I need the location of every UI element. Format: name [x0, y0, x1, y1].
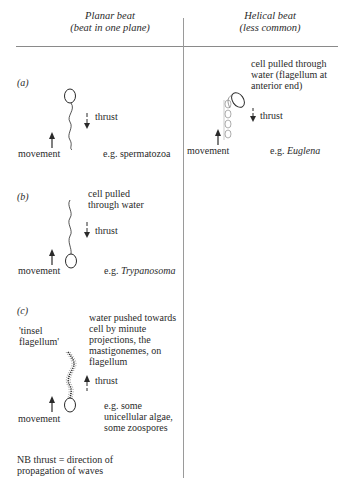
panel-c-example: e.g. some unicellular algae, some zoospo…	[104, 400, 173, 433]
panel-c-movement-label: movement	[18, 413, 60, 424]
panel-c-thrust-label: thrust	[95, 375, 118, 386]
nb-note: NB thrust = direction of propagation of …	[17, 454, 113, 476]
